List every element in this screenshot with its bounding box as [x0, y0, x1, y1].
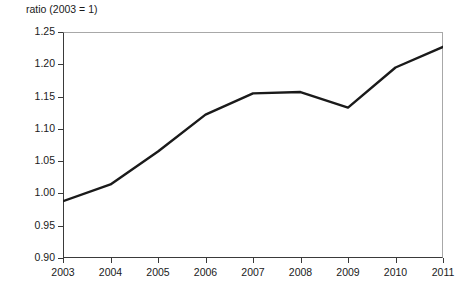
data-series-line — [63, 47, 443, 201]
x-tick-label: 2008 — [278, 267, 324, 278]
y-tick-label: 1.00 — [21, 187, 55, 198]
y-axis-caption: ratio (2003 = 1) — [26, 3, 98, 16]
y-tick-label: 1.15 — [21, 91, 55, 102]
x-tick-label: 2007 — [230, 267, 276, 278]
y-tick-mark — [58, 32, 63, 33]
x-tick-label: 2009 — [325, 267, 371, 278]
y-tick-mark — [58, 97, 63, 98]
x-tick-mark — [443, 258, 444, 263]
y-tick-label: 1.10 — [21, 123, 55, 134]
x-tick-mark — [253, 258, 254, 263]
y-tick-mark — [58, 64, 63, 65]
y-tick-mark — [58, 193, 63, 194]
x-tick-mark — [206, 258, 207, 263]
y-tick-mark — [58, 161, 63, 162]
y-tick-label: 0.95 — [21, 220, 55, 231]
x-tick-label: 2011 — [420, 267, 457, 278]
x-tick-mark — [396, 258, 397, 263]
x-tick-mark — [348, 258, 349, 263]
x-tick-label: 2005 — [135, 267, 181, 278]
x-tick-label: 2003 — [40, 267, 86, 278]
x-tick-mark — [158, 258, 159, 263]
x-tick-label: 2010 — [373, 267, 419, 278]
x-tick-label: 2006 — [183, 267, 229, 278]
x-tick-mark — [111, 258, 112, 263]
y-tick-mark — [58, 129, 63, 130]
y-tick-label: 0.90 — [21, 252, 55, 263]
y-tick-mark — [58, 226, 63, 227]
y-tick-label: 1.05 — [21, 155, 55, 166]
line-chart-figure: ratio (2003 = 1) 0.900.951.001.051.101.1… — [0, 0, 457, 288]
y-tick-label: 1.25 — [21, 26, 55, 37]
y-tick-label: 1.20 — [21, 58, 55, 69]
data-line-layer — [63, 32, 443, 258]
x-tick-label: 2004 — [88, 267, 134, 278]
x-tick-mark — [63, 258, 64, 263]
x-tick-mark — [301, 258, 302, 263]
